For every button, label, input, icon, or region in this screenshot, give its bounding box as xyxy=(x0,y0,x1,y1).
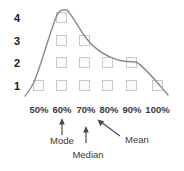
distribution-curve xyxy=(25,10,168,96)
chart-overlay-svg xyxy=(0,0,184,171)
mean-arrow-icon xyxy=(98,119,121,136)
annotation-label-mode: Mode xyxy=(42,136,82,146)
annotation-label-mean: Mean xyxy=(118,135,156,145)
distribution-chart-figure: 4 3 2 1 50% 60% 70% xyxy=(0,0,184,171)
x-axis-tick-60: 60% xyxy=(49,105,75,115)
annotation-label-median: Median xyxy=(66,150,110,160)
median-arrow-icon xyxy=(83,126,89,143)
x-axis-tick-100: 100% xyxy=(142,105,173,115)
mode-arrow-icon xyxy=(59,118,65,135)
